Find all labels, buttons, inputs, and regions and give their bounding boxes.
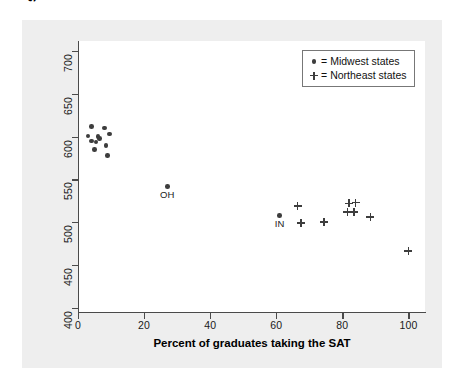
y-tick-label: 550: [62, 178, 74, 204]
legend-equals-sign: =: [320, 69, 330, 81]
y-tick-label: 450: [62, 264, 74, 290]
y-axis-title-text: State mean SAT mathematics score: [26, 0, 38, 41]
y-axis-line: [78, 41, 79, 313]
scatter-plot-figure: 400450500550600650700 020406080100 State…: [0, 0, 457, 383]
dot-marker-icon: [308, 55, 320, 67]
legend-row: =Northeast states: [308, 68, 407, 82]
x-tick-label: 40: [195, 319, 225, 331]
x-axis-line: [78, 312, 426, 313]
data-point-plus: [352, 199, 360, 207]
data-point-dot: [92, 147, 97, 152]
data-point-plus: [404, 247, 412, 255]
y-tick-label: 500: [62, 221, 74, 247]
data-point-dot: [97, 136, 102, 141]
legend-label: Midwest states: [330, 55, 399, 67]
y-axis-title: State mean SAT mathematics score: [26, 0, 42, 41]
x-tick-label: 80: [327, 319, 357, 331]
data-point-plus: [366, 213, 374, 221]
data-point-dot: [89, 124, 94, 129]
data-point-dot: [89, 139, 94, 144]
point-annotation: OH: [160, 189, 174, 200]
legend: =Midwest states=Northeast states: [302, 50, 415, 87]
data-point-dot: [104, 143, 109, 148]
legend-equals-sign: =: [320, 55, 330, 67]
data-point-plus: [350, 208, 358, 216]
data-point-plus: [297, 219, 305, 227]
data-point-plus: [294, 202, 302, 210]
data-point-plus: [320, 218, 328, 226]
x-tick-label: 20: [129, 319, 159, 331]
y-tick-label: 600: [62, 136, 74, 162]
data-point-dot: [165, 184, 170, 189]
x-axis-title: Percent of graduates taking the SAT: [78, 337, 426, 349]
plus-marker-icon: [308, 69, 320, 81]
data-point-dot: [105, 153, 110, 158]
x-tick-label: 0: [63, 319, 93, 331]
data-point-dot: [277, 213, 282, 218]
y-tick-label: 700: [62, 50, 74, 76]
y-tick-label: 650: [62, 93, 74, 119]
point-annotation: IN: [275, 218, 285, 229]
x-tick-label: 60: [261, 319, 291, 331]
legend-row: =Midwest states: [308, 54, 407, 68]
x-tick-label: 100: [393, 319, 423, 331]
legend-label: Northeast states: [330, 69, 406, 81]
